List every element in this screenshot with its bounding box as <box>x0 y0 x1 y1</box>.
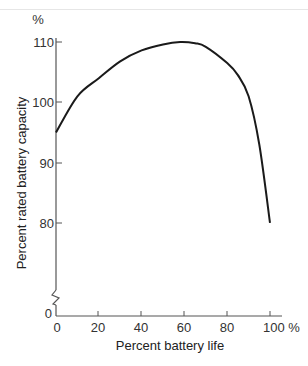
chart: % 110 100 90 80 0 0 20 40 60 80 100 % Pe… <box>0 0 308 366</box>
y-tick-label-0: 0 <box>45 306 52 321</box>
y-unit-label: % <box>32 12 44 27</box>
y-tick-label-90: 90 <box>40 156 54 171</box>
x-ticks <box>98 311 270 316</box>
x-axis-title: Percent battery life <box>116 338 224 353</box>
x-tick-label-20: 20 <box>91 320 105 335</box>
x-tick-label-40: 40 <box>134 320 148 335</box>
capacity-curve <box>56 42 270 223</box>
y-tick-label-80: 80 <box>40 216 54 231</box>
axis-break-icon <box>52 290 59 305</box>
x-tick-label-60: 60 <box>177 320 191 335</box>
x-tick-label-0: 0 <box>53 320 60 335</box>
x-tick-label-100: 100 % <box>263 320 300 335</box>
y-tick-label-100: 100 <box>32 95 54 110</box>
x-tick-label-80: 80 <box>220 320 234 335</box>
y-axis-title: Percent rated battery capacity <box>14 96 29 269</box>
y-tick-label-110: 110 <box>33 35 54 50</box>
